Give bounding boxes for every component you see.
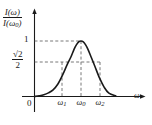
- x-axis-label: ω: [134, 92, 140, 100]
- x-tick-label-omega2: ω2: [96, 99, 105, 108]
- y-axis-label: I(ω) I(ω0): [3, 8, 22, 29]
- x-tick-label-omega1: ω1: [58, 99, 67, 108]
- y-tick-half-denominator: 2: [12, 60, 23, 70]
- y-tick-label-one: 1: [24, 35, 29, 44]
- y-axis-label-numerator: I(ω): [3, 8, 22, 18]
- y-tick-half-numerator: √2: [12, 50, 23, 60]
- resonance-curve-figure: I(ω) I(ω0) 1 √2 2 0 ω1 ω0 ω2 ω: [0, 0, 152, 125]
- origin-label: 0: [27, 99, 32, 108]
- y-tick-label-half-power: √2 2: [12, 50, 23, 70]
- y-axis-label-denominator: I(ω0): [3, 18, 22, 29]
- x-tick-label-omega0: ω0: [77, 99, 86, 108]
- resonance-curve: [35, 41, 116, 97]
